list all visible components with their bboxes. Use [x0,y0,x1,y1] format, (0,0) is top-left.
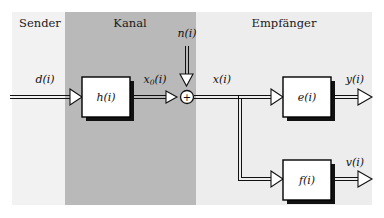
block-diagram-figure: Sender Kanal Empfänger [0,0,384,218]
adder-plus-glyph: + [183,92,191,103]
block-e-label: e(i) [298,91,317,104]
signal-label-n: n(i) [177,27,196,40]
signal-label-y: y(i) [345,73,364,86]
block-f[interactable]: f(i) [283,160,335,204]
block-e[interactable]: e(i) [283,77,335,121]
signal-label-v: v(i) [346,156,364,169]
diagram-canvas: Sender Kanal Empfänger [0,0,384,218]
signal-label-x0-text: x0(i) [143,73,166,87]
region-label-empfaenger: Empfänger [252,16,317,30]
block-h-label: h(i) [96,91,115,104]
signal-label-x: x(i) [213,73,231,86]
region-label-kanal: Kanal [113,16,147,30]
signal-label-x0: x0(i) [143,73,166,87]
region-label-sender: Sender [19,16,61,30]
adder-node: + [181,91,194,104]
block-h[interactable]: h(i) [82,77,134,121]
signal-label-d: d(i) [35,73,54,86]
region-sender-band [12,12,65,205]
block-f-label: f(i) [298,174,315,187]
